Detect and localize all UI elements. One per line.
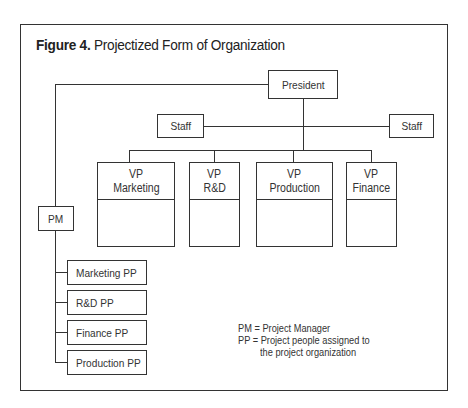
vp-rd-line1: VP — [207, 167, 221, 181]
vp-rd-box: VP R&D — [189, 162, 240, 247]
president-label: President — [282, 79, 325, 91]
president-box: President — [268, 70, 338, 99]
connector-vp-marketing — [129, 150, 130, 162]
figure-title: Figure 4. Projectized Form of Organizati… — [36, 36, 285, 54]
connector-vp-production — [293, 150, 294, 162]
vp-marketing-header: VP Marketing — [98, 163, 174, 200]
vp-finance-box: VP Finance — [346, 162, 397, 247]
staff-right-label: Staff — [401, 120, 422, 132]
vp-rd-line2: R&D — [203, 181, 225, 195]
pp-finance-label: Finance PP — [76, 327, 128, 339]
pm-box: PM — [38, 206, 74, 231]
vp-finance-header: VP Finance — [347, 163, 396, 200]
vp-finance-line1: VP — [364, 167, 378, 181]
pp-production-box: Production PP — [67, 350, 147, 375]
vp-marketing-box: VP Marketing — [97, 162, 175, 247]
connector-vp-rd — [214, 150, 215, 162]
staff-right-box: Staff — [389, 114, 434, 138]
connector-vp-finance — [371, 150, 372, 162]
legend-line-pm: PM = Project Manager — [238, 322, 370, 334]
connector-pp-rd — [55, 302, 67, 303]
vp-production-header: VP Production — [257, 163, 332, 200]
connector-president-to-pm — [55, 84, 268, 85]
vp-finance-line2: Finance — [353, 181, 391, 195]
pm-label: PM — [48, 213, 63, 225]
connector-pp-finance — [55, 332, 67, 333]
pp-rd-label: R&D PP — [76, 297, 114, 309]
pp-production-label: Production PP — [76, 357, 141, 369]
vp-marketing-line2: Marketing — [113, 181, 159, 195]
legend-line-pp: PP = Project people assigned to — [238, 334, 370, 346]
pp-finance-box: Finance PP — [67, 320, 147, 345]
vp-production-line2: Production — [269, 181, 319, 195]
vp-marketing-line1: VP — [129, 167, 143, 181]
figure-title-text: Projectized Form of Organization — [94, 36, 285, 53]
vp-rd-header: VP R&D — [190, 163, 239, 200]
vp-production-line1: VP — [287, 167, 301, 181]
pp-marketing-box: Marketing PP — [67, 260, 147, 285]
legend-line-pp-cont: the project organization — [238, 346, 370, 358]
vp-production-box: VP Production — [256, 162, 333, 247]
connector-pm-trunk-top — [55, 84, 56, 206]
legend: PM = Project Manager PP = Project people… — [238, 322, 388, 358]
figure-label: Figure 4. — [36, 36, 90, 53]
connector-pm-trunk-bottom — [55, 230, 56, 362]
connector-pp-production — [55, 362, 67, 363]
connector-staff — [204, 126, 389, 127]
connector-pp-marketing — [55, 272, 67, 273]
pp-rd-box: R&D PP — [67, 290, 147, 315]
staff-left-box: Staff — [157, 114, 204, 138]
pp-marketing-label: Marketing PP — [76, 267, 137, 279]
connector-president-down — [303, 98, 304, 150]
connector-vp-bus — [129, 150, 372, 151]
staff-left-label: Staff — [170, 120, 191, 132]
